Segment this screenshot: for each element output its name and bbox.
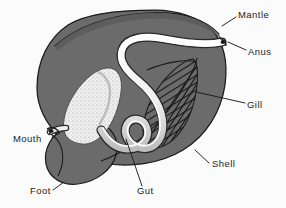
leader-shell (195, 150, 209, 163)
mouth-dot (48, 129, 53, 133)
anus-dot (221, 40, 226, 44)
label-mouth: Mouth (13, 133, 42, 144)
label-foot: Foot (30, 185, 51, 196)
label-mantle: Mantle (238, 9, 269, 20)
label-gut: Gut (137, 185, 154, 196)
label-gill: Gill (247, 99, 263, 110)
leader-anus (228, 42, 246, 50)
leader-foot (53, 182, 64, 190)
leader-mantle (222, 17, 236, 26)
anatomy-figure: Mantle Anus Gill Shell Mouth Foot Gut (0, 0, 286, 208)
label-shell: Shell (212, 158, 235, 169)
label-anus: Anus (248, 46, 271, 57)
anatomy-diagram-canvas: Mantle Anus Gill Shell Mouth Foot Gut (0, 0, 286, 208)
